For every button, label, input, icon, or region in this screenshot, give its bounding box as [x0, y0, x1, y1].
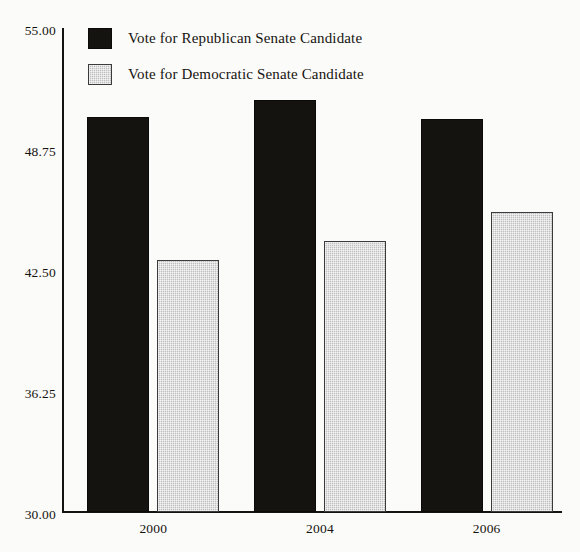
- bar-democratic-2000: [157, 260, 219, 512]
- x-axis-tick-label: 2006: [473, 521, 501, 537]
- y-axis-tick-labels: 30.0036.2542.5048.7555.00: [0, 0, 56, 552]
- y-axis-tick-label: 48.75: [4, 144, 56, 160]
- bar-republican-2006: [421, 119, 483, 512]
- y-axis-tick-label: 30.00: [4, 507, 56, 523]
- x-axis-tick-label: 2000: [139, 521, 167, 537]
- y-axis-tick-label: 36.25: [4, 386, 56, 402]
- bar-republican-2000: [87, 117, 149, 512]
- bar-chart-figure: Vote for Republican Senate Candidate Vot…: [0, 0, 580, 552]
- x-axis-tick-labels: 200020042006: [62, 521, 562, 545]
- bar-democratic-2004: [324, 241, 386, 512]
- bar-democratic-2006: [491, 212, 553, 512]
- x-axis-tick-label: 2004: [306, 521, 334, 537]
- y-axis-tick-label: 42.50: [4, 265, 56, 281]
- y-axis-tick-label: 55.00: [4, 23, 56, 39]
- plot-area: [62, 28, 562, 512]
- bar-republican-2004: [254, 100, 316, 512]
